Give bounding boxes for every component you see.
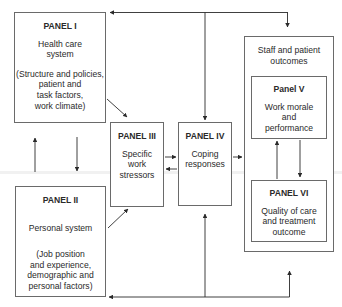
panel-4-coping-responses: PANEL IV Coping responses [178, 122, 232, 206]
panel-2-personal-system: PANEL II Personal system (Job position a… [15, 186, 106, 297]
panel-1-details: (Structure and policies, patient and tas… [13, 69, 107, 111]
panel-1-subtitle: Health care system [15, 39, 105, 60]
panel-2-title: PANEL II [16, 195, 105, 206]
panel-2-to-panel-3-arrow [108, 209, 128, 228]
outcomes-group-title: Staff and patient outcomes [245, 45, 333, 66]
panel-6-title: PANEL VI [252, 188, 326, 199]
panel-3-subtitle: Specific work stressors [111, 149, 163, 181]
panel-4-title: PANEL IV [179, 131, 231, 142]
panel-1-title: PANEL I [15, 21, 105, 32]
panel-4-subtitle: Coping responses [179, 149, 231, 170]
panel-5-title: Panel V [252, 84, 326, 95]
panel-1-health-care-system: PANEL I Health care system (Structure an… [14, 12, 106, 123]
panel-2-subtitle: Personal system [16, 223, 105, 234]
panel-5-work-morale: Panel V Work morale and performance [251, 76, 327, 139]
panel-5-subtitle: Work morale and performance [252, 102, 326, 134]
panel-3-specific-work-stressors: PANEL III Specific work stressors [110, 122, 164, 207]
panel-6-quality-of-care: PANEL VI Quality of care and treatment o… [251, 180, 327, 242]
panel-1-to-panel-3-arrow [107, 99, 127, 117]
panel-2-details: (Job position and experience, demographi… [16, 249, 105, 291]
panel-6-subtitle: Quality of care and treatment outcome [252, 206, 326, 238]
panel-3-title: PANEL III [111, 131, 163, 142]
